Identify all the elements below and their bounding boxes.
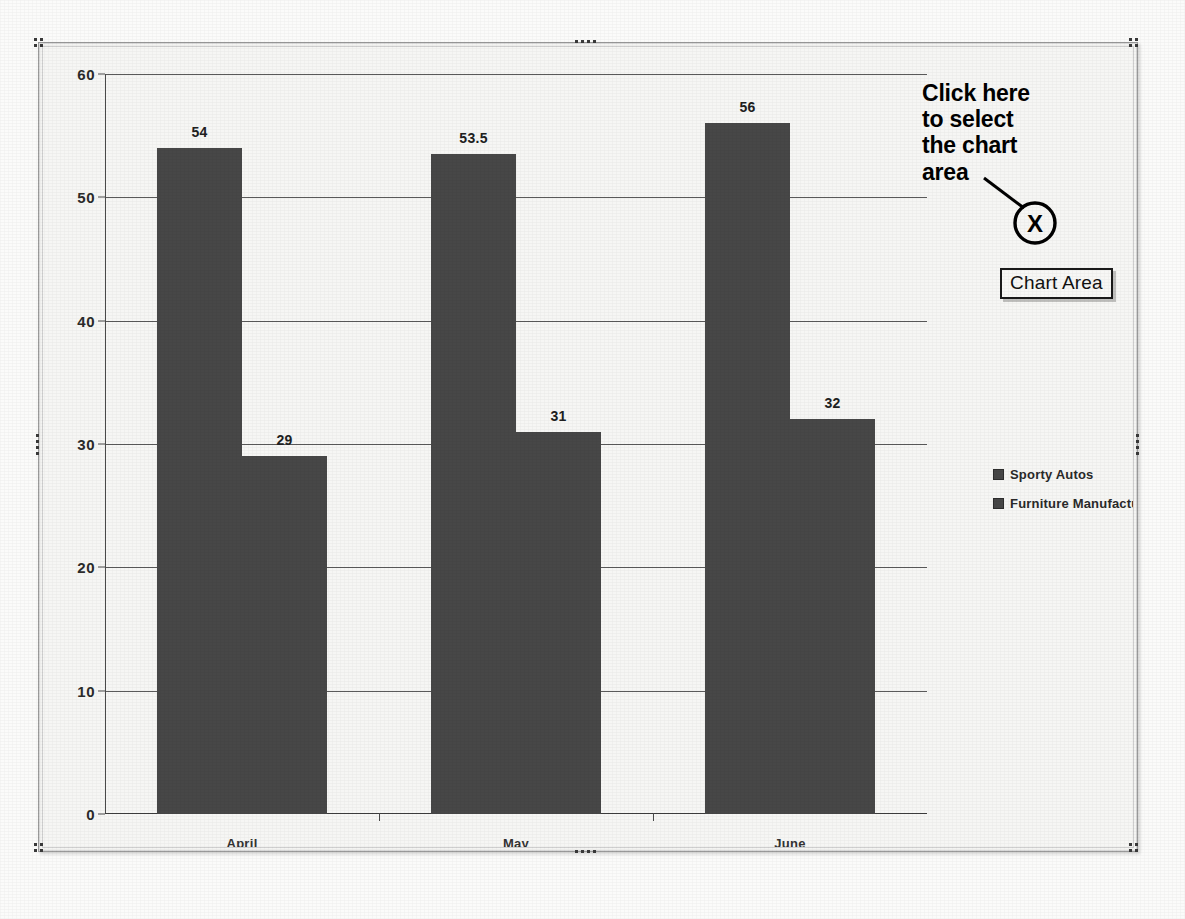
page-background: 0102030405060 AprilMayJune 542953.531563… <box>0 0 1185 919</box>
bar[interactable] <box>705 123 790 814</box>
y-tick-label: 40 <box>77 312 95 329</box>
data-label: 29 <box>276 432 292 448</box>
chart-legend[interactable]: Sporty AutosFurniture Manufacturing <box>993 467 1133 525</box>
annotation-text-line: area <box>922 159 1122 185</box>
data-label: 31 <box>550 408 566 424</box>
y-axis-line <box>105 74 106 814</box>
chart-area-tooltip: Chart Area <box>1000 268 1113 299</box>
y-tick-mark <box>98 567 105 568</box>
annotation-text-line: the chart <box>922 132 1122 158</box>
resize-handle-bottom-left[interactable] <box>34 843 47 856</box>
y-tick-mark <box>98 690 105 691</box>
legend-item[interactable]: Furniture Manufacturing <box>993 496 1133 511</box>
bar[interactable] <box>516 432 601 814</box>
resize-handle-middle-right[interactable] <box>1136 434 1140 460</box>
legend-swatch-icon <box>993 498 1004 509</box>
resize-handle-top-right[interactable] <box>1129 38 1142 51</box>
plot-area[interactable]: 0102030405060 AprilMayJune 542953.531563… <box>105 74 927 814</box>
y-tick-mark <box>98 814 105 815</box>
x-tick-label: April <box>226 836 257 847</box>
y-tick-label: 0 <box>86 806 95 823</box>
data-label: 53.5 <box>459 130 487 146</box>
legend-item-label: Sporty Autos <box>1010 467 1094 482</box>
data-label: 32 <box>824 395 840 411</box>
y-tick-mark <box>98 197 105 198</box>
annotation-text-line: Click here <box>922 80 1122 106</box>
y-tick-label: 20 <box>77 559 95 576</box>
x-tick-label: June <box>774 836 806 847</box>
y-tick-label: 30 <box>77 436 95 453</box>
legend-item-label: Furniture Manufacturing <box>1010 496 1133 511</box>
resize-handle-top-center[interactable] <box>575 40 601 44</box>
resize-handle-top-left[interactable] <box>34 38 47 51</box>
y-tick-label: 10 <box>77 682 95 699</box>
gridline <box>105 74 927 75</box>
bar[interactable] <box>157 148 242 814</box>
y-tick-label: 60 <box>77 66 95 83</box>
annotation-text-line: to select <box>922 106 1122 132</box>
bar[interactable] <box>431 154 516 814</box>
legend-item[interactable]: Sporty Autos <box>993 467 1133 482</box>
bar[interactable] <box>242 456 327 814</box>
legend-swatch-icon <box>993 469 1004 480</box>
x-axis-category-separator <box>653 813 654 821</box>
data-label: 54 <box>191 124 207 140</box>
x-axis-category-separator <box>379 813 380 821</box>
y-tick-mark <box>98 444 105 445</box>
annotation-callout: Click hereto selectthe chartarea X <box>922 80 1122 185</box>
y-tick-mark <box>98 320 105 321</box>
y-tick-mark <box>98 74 105 75</box>
resize-handle-bottom-center[interactable] <box>575 850 601 854</box>
data-label: 56 <box>739 99 755 115</box>
bar[interactable] <box>790 419 875 814</box>
y-tick-label: 50 <box>77 189 95 206</box>
x-tick-label: May <box>503 836 529 847</box>
resize-handle-bottom-right[interactable] <box>1129 843 1142 856</box>
resize-handle-middle-left[interactable] <box>36 434 40 460</box>
annotation-text: Click hereto selectthe chartarea <box>922 80 1122 185</box>
